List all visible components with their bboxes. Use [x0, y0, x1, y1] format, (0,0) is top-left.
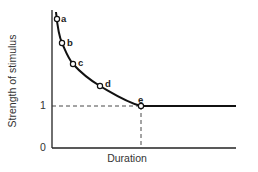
- strength-duration-chart: [0, 0, 258, 172]
- y-axis-label: Strength of stimulus: [6, 35, 18, 128]
- point-c-marker: [70, 61, 75, 66]
- point-c-label: c: [78, 57, 83, 68]
- point-b-marker: [59, 40, 64, 45]
- point-e-label: e: [138, 94, 143, 105]
- y-tick-0: 0: [40, 141, 46, 153]
- point-d-label: d: [105, 78, 111, 89]
- x-axis-label: Duration: [107, 152, 147, 164]
- y-tick-1: 1: [40, 99, 46, 111]
- point-d-marker: [97, 83, 102, 88]
- point-b-label: b: [67, 37, 73, 48]
- point-a-label: a: [61, 13, 66, 24]
- strength-duration-curve: [56, 12, 141, 106]
- point-a-marker: [54, 16, 59, 21]
